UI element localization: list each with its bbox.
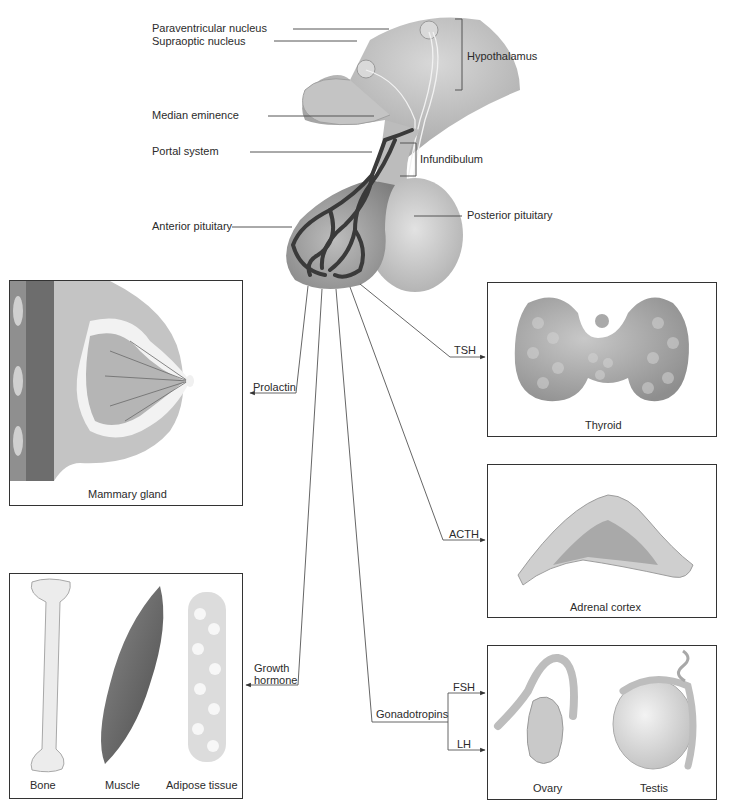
label-median-eminence: Median eminence <box>152 109 239 122</box>
label-prolactin: Prolactin <box>253 381 296 394</box>
mammary-gland-panel: Mammary gland <box>9 280 243 506</box>
caption-adrenal-cortex: Adrenal cortex <box>570 601 641 613</box>
caption-adipose-tissue: Adipose tissue <box>166 779 238 791</box>
adrenal-cortex-panel: Adrenal cortex <box>487 464 717 618</box>
thyroid-illustration <box>488 283 716 413</box>
ovary-testis-illustration <box>488 646 716 776</box>
bone-muscle-adipose-illustration <box>10 574 241 774</box>
label-acth: ACTH <box>449 528 479 541</box>
ovary-shape <box>527 697 563 764</box>
mammary-gland-illustration <box>10 281 241 481</box>
label-growth-hormone-2: hormone <box>254 674 297 687</box>
label-anterior-pituitary: Anterior pituitary <box>152 220 232 233</box>
caption-ovary: Ovary <box>533 782 562 794</box>
label-lh: LH <box>457 738 471 751</box>
gonads-panel: Ovary Testis <box>487 645 717 800</box>
label-hypothalamus: Hypothalamus <box>467 50 537 63</box>
anterior-pituitary-shape <box>286 180 395 289</box>
adipose-shape <box>188 592 226 762</box>
adrenal-cortex-illustration <box>488 465 716 595</box>
label-fsh: FSH <box>453 681 475 694</box>
caption-thyroid: Thyroid <box>585 419 622 431</box>
label-supraoptic-nucleus: Supraoptic nucleus <box>152 35 246 48</box>
caption-bone: Bone <box>30 779 56 791</box>
label-portal-system: Portal system <box>152 145 219 158</box>
muscle-shape <box>101 586 163 764</box>
label-posterior-pituitary: Posterior pituitary <box>467 209 553 222</box>
caption-muscle: Muscle <box>105 779 140 791</box>
caption-testis: Testis <box>640 782 668 794</box>
growth-targets-panel: Bone Muscle Adipose tissue <box>9 573 243 799</box>
label-paraventricular-nucleus: Paraventricular nucleus <box>152 22 267 35</box>
label-infundibulum: Infundibulum <box>420 153 483 166</box>
bone-shape <box>31 579 70 772</box>
label-gonadotropins: Gonadotropins <box>376 708 448 721</box>
thyroid-panel: Thyroid <box>487 282 717 437</box>
caption-mammary-gland: Mammary gland <box>88 488 167 500</box>
label-tsh: TSH <box>454 344 476 357</box>
